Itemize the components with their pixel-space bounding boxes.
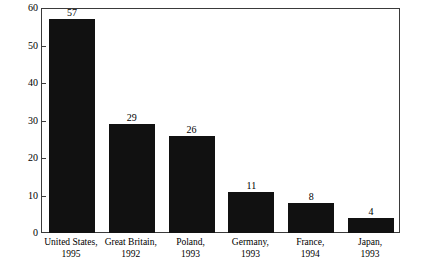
bar-group: 26 <box>169 8 215 233</box>
y-axis-tick-label: 0 <box>4 228 38 238</box>
bar <box>228 192 274 233</box>
bar-value-label: 4 <box>348 206 394 217</box>
x-axis-label-line1: United States, <box>41 236 101 248</box>
bar-value-label: 8 <box>288 191 334 202</box>
x-axis-label-line2: 1994 <box>280 248 340 260</box>
bar-group: 29 <box>109 8 155 233</box>
bar <box>109 124 155 233</box>
y-axis-tick-label: 20 <box>4 153 38 163</box>
x-axis-label-line1: Great Britain, <box>101 236 161 248</box>
x-axis-label-line1: France, <box>280 236 340 248</box>
x-axis-label-line2: 1992 <box>101 248 161 260</box>
x-axis-label-line2: 1993 <box>161 248 221 260</box>
bar <box>348 218 394 233</box>
y-axis-tick-label: 50 <box>4 41 38 51</box>
x-axis-category-label: Germany,1993 <box>221 236 281 260</box>
bar-value-label: 29 <box>109 112 155 123</box>
y-axis-tick-label: 40 <box>4 78 38 88</box>
y-axis-tick-label: 30 <box>4 116 38 126</box>
bar <box>49 19 95 233</box>
bar-group: 11 <box>228 8 274 233</box>
x-axis-category-label: Great Britain,1992 <box>101 236 161 260</box>
y-axis-tick-label: 60 <box>4 3 38 13</box>
x-axis: United States,1995Great Britain,1992Pola… <box>41 236 400 268</box>
x-axis-category-label: Poland,1993 <box>161 236 221 260</box>
x-axis-label-line2: 1995 <box>41 248 101 260</box>
bar <box>288 203 334 233</box>
bars-layer: 5729261184 <box>41 8 400 233</box>
bar-group: 8 <box>288 8 334 233</box>
bar-chart: 0102030405060 5729261184 United States,1… <box>0 0 422 269</box>
bar-value-label: 26 <box>169 124 215 135</box>
x-axis-label-line1: Poland, <box>161 236 221 248</box>
bar-value-label: 57 <box>49 7 95 18</box>
x-axis-category-label: France,1994 <box>280 236 340 260</box>
x-axis-label-line1: Germany, <box>221 236 281 248</box>
y-axis-tick-label: 10 <box>4 191 38 201</box>
x-axis-category-label: Japan,1993 <box>340 236 400 260</box>
x-axis-category-label: United States,1995 <box>41 236 101 260</box>
bar-value-label: 11 <box>228 180 274 191</box>
bar-group: 57 <box>49 8 95 233</box>
y-axis: 0102030405060 <box>0 0 38 241</box>
x-axis-label-line2: 1993 <box>340 248 400 260</box>
bar-group: 4 <box>348 8 394 233</box>
bar <box>169 136 215 234</box>
x-axis-label-line1: Japan, <box>340 236 400 248</box>
x-axis-label-line2: 1993 <box>221 248 281 260</box>
